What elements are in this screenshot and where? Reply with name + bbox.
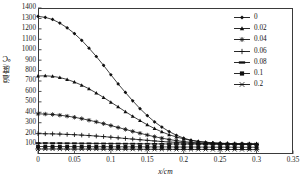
legend-item-0_08[interactable]: 0.08 bbox=[232, 57, 292, 68]
x-tick-label: 0.15 bbox=[132, 156, 162, 164]
legend-label: 0.2 bbox=[252, 81, 263, 88]
y-tick-label: 1100 bbox=[10, 36, 36, 43]
x-tick-label: 0.35 bbox=[278, 156, 307, 164]
legend-item-0_2[interactable]: 0.2 bbox=[232, 79, 292, 90]
y-tick-label: 1300 bbox=[10, 15, 36, 22]
legend-label: 0.04 bbox=[252, 36, 267, 43]
y-tick-label: 800 bbox=[10, 67, 36, 74]
y-tick-label: 700 bbox=[10, 77, 36, 84]
x-axis-title: x/cm bbox=[38, 167, 293, 176]
y-tick-label: 1000 bbox=[10, 46, 36, 53]
legend-marker-asterisk-icon bbox=[232, 34, 252, 45]
legend-label: 0.02 bbox=[252, 25, 267, 32]
y-tick-label: 900 bbox=[10, 57, 36, 64]
y-tick-label: 400 bbox=[10, 109, 36, 116]
y-tick-label: 1400 bbox=[10, 4, 36, 11]
y-tick-label: 100 bbox=[10, 140, 36, 147]
legend-label: 0.06 bbox=[252, 48, 267, 55]
y-tick-label: 500 bbox=[10, 98, 36, 105]
y-tick-label: 1200 bbox=[10, 25, 36, 32]
legend-item-0[interactable]: 0 bbox=[232, 12, 292, 23]
legend-marker-dash-icon bbox=[232, 57, 252, 68]
legend-label: 0 bbox=[252, 14, 258, 21]
legend-marker-square-icon bbox=[232, 68, 252, 79]
x-axis-title-text: x/cm bbox=[158, 167, 172, 176]
legend-item-0_06[interactable]: 0.06 bbox=[232, 46, 292, 57]
legend-marker-x-dash-icon bbox=[232, 79, 252, 90]
legend: 00.020.040.060.080.10.2 bbox=[232, 12, 292, 90]
y-axis-tick-labels: 1002003004005006007008009001000110012001… bbox=[8, 0, 36, 181]
x-tick-label: 0.05 bbox=[59, 156, 89, 164]
y-tick-label: 600 bbox=[10, 88, 36, 95]
legend-label: 0.1 bbox=[252, 70, 263, 77]
legend-marker-triangle-icon bbox=[232, 23, 252, 34]
x-tick-label: 0.1 bbox=[96, 156, 126, 164]
y-tick-label: 300 bbox=[10, 119, 36, 126]
x-tick-label: 0.25 bbox=[205, 156, 235, 164]
y-tick-label: 200 bbox=[10, 130, 36, 137]
legend-marker-plus-icon bbox=[232, 46, 252, 57]
x-tick-label: 0.2 bbox=[169, 156, 199, 164]
legend-marker-diamond-icon bbox=[232, 12, 252, 23]
y-axis-title: 温度/℃ bbox=[1, 54, 12, 83]
x-tick-label: 0 bbox=[23, 156, 53, 164]
figure: 1002003004005006007008009001000110012001… bbox=[0, 0, 307, 181]
legend-item-0_1[interactable]: 0.1 bbox=[232, 68, 292, 79]
legend-item-0_04[interactable]: 0.04 bbox=[232, 34, 292, 45]
legend-item-0_02[interactable]: 0.02 bbox=[232, 23, 292, 34]
legend-label: 0.08 bbox=[252, 59, 267, 66]
x-tick-label: 0.3 bbox=[242, 156, 272, 164]
